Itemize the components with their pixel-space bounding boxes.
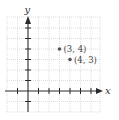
point-marker-icon <box>58 47 62 51</box>
point-marker-icon <box>68 58 72 62</box>
y-axis <box>25 16 31 112</box>
coordinate-plane: x y (3, 4) (4, 3) <box>0 0 119 120</box>
x-axis-label: x <box>105 85 111 96</box>
x-axis-arrow-icon <box>96 88 103 94</box>
x-axis <box>5 88 103 94</box>
grid <box>7 17 100 112</box>
point-label: (4, 3) <box>74 55 97 65</box>
point-label: (3, 4) <box>64 44 87 54</box>
point-4-3: (4, 3) <box>68 55 97 65</box>
y-axis-label: y <box>24 4 31 15</box>
